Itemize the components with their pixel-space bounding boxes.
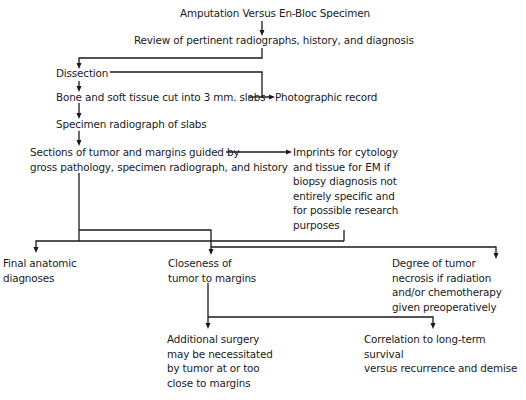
node-necrosis: Degree of tumor necrosis if radiation an… [392, 256, 502, 314]
node-additional-surgery: Additional surgery may be necessitated b… [167, 332, 273, 390]
node-final-diagnoses: Final anatomic diagnoses [3, 256, 77, 285]
arrow-head-icon [431, 323, 436, 329]
node-photographic-record: Photographic record [275, 90, 377, 105]
arrow-head-icon [206, 323, 211, 329]
arrow-head-icon [34, 247, 39, 253]
node-sections: Sections of tumor and margins guided by … [30, 145, 288, 174]
node-imprints: Imprints for cytology and tissue for EM … [293, 145, 398, 233]
node-specimen-radiograph: Specimen radiograph of slabs [56, 117, 207, 132]
node-slabs: Bone and soft tissue cut into 3 mm. slab… [56, 90, 265, 105]
flowchart: Amputation Versus En-Bloc Specimen Revie… [0, 0, 526, 400]
node-closeness: Closeness of tumor to margins [168, 256, 256, 285]
node-dissection: Dissection [56, 66, 108, 81]
node-title: Amputation Versus En-Bloc Specimen [180, 6, 370, 21]
node-correlation: Correlation to long-term survival versus… [364, 332, 526, 376]
arrow-head-icon [209, 249, 214, 255]
node-review: Review of pertinent radiographs, history… [134, 33, 414, 48]
